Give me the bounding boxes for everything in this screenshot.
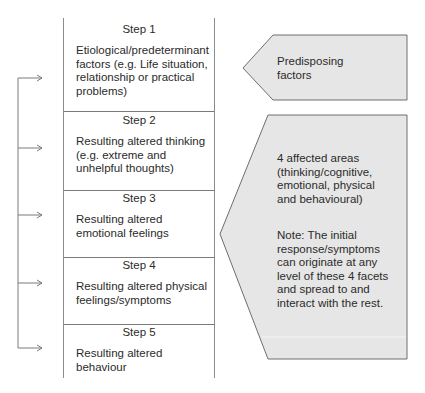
feedback-arrow bbox=[18, 345, 42, 351]
step-5-title: Step 5 bbox=[64, 326, 214, 338]
step-divider bbox=[64, 324, 214, 325]
step-3-text: Resulting altered emotional feelings bbox=[76, 213, 214, 240]
step-4-text: Resulting altered physical feelings/symp… bbox=[76, 280, 214, 307]
predisposing-label: Predisposing factors bbox=[277, 55, 377, 82]
step-1-text: Etiological/predeterminant factors (e.g.… bbox=[76, 44, 214, 98]
feedback-arrow bbox=[18, 75, 42, 81]
affected-areas-summary: 4 affected areas (thinking/cognitive, em… bbox=[277, 152, 392, 206]
step-2-title: Step 2 bbox=[64, 114, 214, 126]
step-divider bbox=[64, 257, 214, 258]
feedback-arrow bbox=[18, 145, 42, 151]
step-4-title: Step 4 bbox=[64, 259, 214, 271]
steps-column: Step 1 Etiological/predeterminant factor… bbox=[63, 18, 215, 378]
step-divider bbox=[64, 190, 214, 191]
step-3-title: Step 3 bbox=[64, 192, 214, 204]
step-2-text: Resulting altered thinking (e.g. extreme… bbox=[76, 135, 214, 176]
step-5-text: Resulting altered behaviour bbox=[76, 347, 214, 374]
feedback-arrow bbox=[18, 212, 42, 218]
feedback-arrow bbox=[18, 280, 42, 286]
affected-areas-note: Note: The initial response/symptoms can … bbox=[277, 229, 392, 310]
step-divider bbox=[64, 111, 214, 112]
step-1-title: Step 1 bbox=[64, 23, 214, 35]
